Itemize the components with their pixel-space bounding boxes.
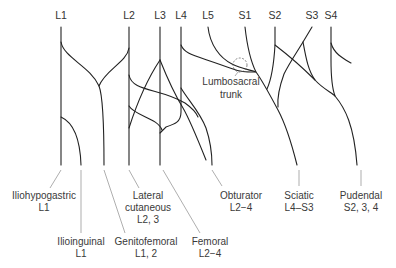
femoral-roots: L2−4 bbox=[199, 248, 222, 259]
lateral-cutaneous-name-2: cutaneous bbox=[125, 202, 171, 213]
sciatic-roots: L4–S3 bbox=[285, 202, 314, 213]
pudendal-name: Pudendal bbox=[340, 190, 382, 201]
root-label-l2: L2 bbox=[123, 9, 135, 21]
s3-root-path bbox=[278, 27, 312, 107]
root-label-l1: L1 bbox=[55, 9, 67, 21]
l4-root-path bbox=[160, 27, 181, 133]
l2-genitofemoral-branch bbox=[99, 48, 129, 86]
s4-root-path bbox=[331, 27, 357, 165]
nerve-labels: Iliohypogastric L1 Ilioinguinal L1 Later… bbox=[12, 190, 382, 259]
s4-side-branch bbox=[331, 43, 351, 63]
lateral-cutaneous-leader bbox=[129, 170, 139, 188]
s2-root-path bbox=[267, 27, 275, 89]
root-label-l5: L5 bbox=[202, 9, 214, 21]
root-label-l3: L3 bbox=[154, 9, 166, 21]
obturator-name: Obturator bbox=[220, 190, 263, 201]
lateral-cutaneous-name: Lateral bbox=[133, 190, 164, 201]
genitofemoral-name: Genitofemoral bbox=[115, 236, 178, 247]
lumbosacral-label-line2: trunk bbox=[220, 89, 243, 100]
genitofemoral-leader bbox=[104, 170, 125, 233]
lumbosacral-plexus-diagram: L1 L2 L3 L4 L5 S1 S2 S3 S4 bbox=[0, 0, 396, 268]
root-label-s3: S3 bbox=[306, 9, 319, 21]
ilioinguinal-roots: L1 bbox=[75, 248, 87, 259]
lumbosacral-label-line1: Lumbosacral bbox=[202, 76, 259, 87]
root-label-s1: S1 bbox=[239, 9, 252, 21]
l1-ilioinguinal-branch bbox=[61, 117, 81, 165]
root-label-s2: S2 bbox=[269, 9, 282, 21]
iliohypogastric-leader bbox=[50, 170, 61, 188]
root-label-s4: S4 bbox=[325, 9, 338, 21]
leader-lines bbox=[50, 170, 361, 233]
genitofemoral-roots: L1, 2 bbox=[135, 248, 158, 259]
l2-femoral-branch bbox=[129, 75, 198, 117]
l3-obturator-branch bbox=[160, 60, 206, 160]
s1-root-path bbox=[245, 27, 297, 165]
femoral-name: Femoral bbox=[192, 236, 229, 247]
l3-lateral-cutaneous-branch bbox=[129, 60, 160, 128]
sciatic-name: Sciatic bbox=[284, 190, 313, 201]
lateral-cutaneous-roots: L2, 3 bbox=[137, 214, 160, 225]
iliohypogastric-name: Iliohypogastric bbox=[12, 190, 76, 201]
l2-lower-branch bbox=[129, 106, 162, 130]
ilioinguinal-name: Ilioinguinal bbox=[57, 236, 104, 247]
root-label-l4: L4 bbox=[175, 9, 187, 21]
root-labels: L1 L2 L3 L4 L5 S1 S2 S3 S4 bbox=[55, 9, 337, 21]
obturator-roots: L2−4 bbox=[230, 202, 253, 213]
l1-genitofemoral-branch bbox=[61, 42, 104, 165]
nerve-paths bbox=[61, 27, 357, 165]
l4-obturator-branch bbox=[181, 88, 212, 165]
iliohypogastric-roots: L1 bbox=[38, 202, 50, 213]
pudendal-roots: S2, 3, 4 bbox=[344, 202, 379, 213]
obturator-leader bbox=[212, 170, 222, 186]
